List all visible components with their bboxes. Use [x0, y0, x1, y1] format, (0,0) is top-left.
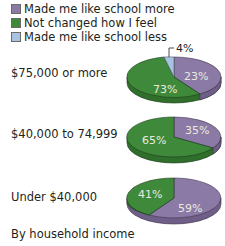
pct-notchanged-40k: 65% [142, 134, 166, 147]
pct-more-40k: 35% [185, 124, 209, 137]
pct-less-75k: 4% [176, 42, 193, 55]
pie-charts: 4% 23% 73% 35% 65% 59% 41% [0, 0, 225, 246]
pct-more-under40k: 59% [178, 202, 202, 215]
pie-under-40k: 59% 41% [127, 178, 221, 224]
pct-more-75k: 23% [184, 70, 208, 83]
pct-notchanged-75k: 73% [153, 83, 177, 96]
pie-75k-plus: 4% 23% 73% [127, 42, 221, 103]
pie-40k-75k: 35% 65% [127, 117, 221, 163]
pct-notchanged-under40k: 41% [138, 188, 162, 201]
